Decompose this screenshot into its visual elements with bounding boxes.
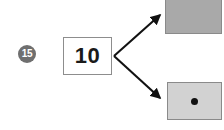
arrow-down-right-icon — [114, 56, 160, 98]
tile-bottom — [167, 82, 222, 120]
tile-top — [165, 0, 222, 34]
counter-dot-icon — [191, 98, 198, 105]
arrow-up-right-icon — [114, 15, 160, 56]
diagram-canvas: 15 10 — [0, 0, 224, 130]
